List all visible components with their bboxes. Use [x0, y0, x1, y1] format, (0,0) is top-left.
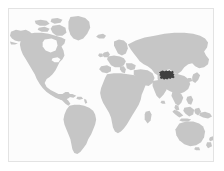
world-locator-map-figure	[0, 0, 224, 171]
world-map-svg	[9, 9, 213, 161]
map-frame	[8, 8, 214, 162]
